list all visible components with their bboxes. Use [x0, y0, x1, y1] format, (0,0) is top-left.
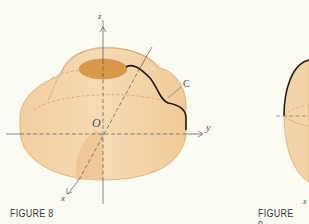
x-arrow-icon	[67, 188, 72, 194]
figure-8-caption: FIGURE 8	[10, 207, 54, 219]
figure-9-sphere	[276, 60, 309, 182]
x-axis-line	[68, 178, 80, 194]
origin-label: O	[92, 117, 101, 129]
z-axis-label: z	[98, 12, 102, 21]
x-axis-label: x	[61, 194, 65, 203]
curve-c-label: C	[183, 79, 190, 89]
y-axis-label: y	[206, 123, 210, 133]
figure-9-x-axis-label: x	[303, 198, 307, 206]
figure-8-surface-diagram	[0, 0, 309, 224]
textbook-page: z y x O C x FIGURE 8 FIGURE 9	[0, 0, 309, 224]
figure-9-caption: FIGURE 9	[258, 207, 300, 224]
